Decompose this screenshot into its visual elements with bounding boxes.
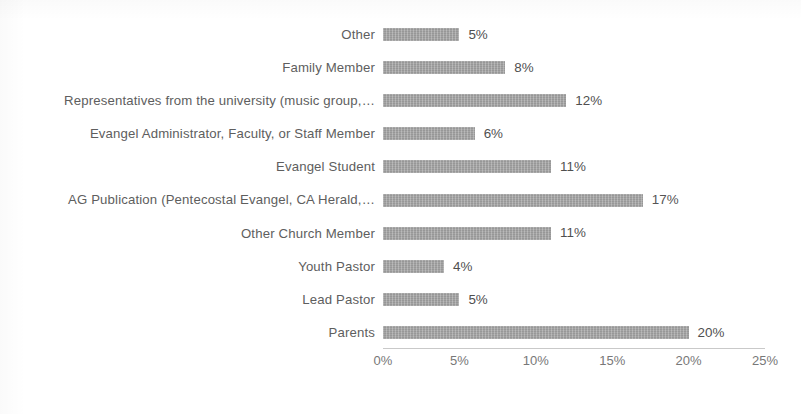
category-label: AG Publication (Pentecostal Evangel, CA … [68, 193, 375, 206]
category-label: Other Church Member [241, 227, 375, 240]
bar-row: Youth Pastor4% [0, 250, 801, 283]
bar-rows: Other5%Family Member8%Representatives fr… [0, 18, 801, 349]
x-axis-line [383, 348, 765, 349]
bar-chart: Other5%Family Member8%Representatives fr… [0, 0, 801, 414]
bar-value-label: 11% [560, 226, 586, 239]
plot-area: Other5%Family Member8%Representatives fr… [0, 0, 801, 414]
bar-value-label: 5% [468, 293, 487, 306]
bar-value-label: 17% [652, 193, 679, 206]
category-label: Evangel Student [276, 160, 375, 173]
category-label: Parents [329, 326, 376, 339]
bar-container: 17% [383, 194, 679, 207]
bar-value-label: 20% [698, 326, 725, 339]
bar-row: Other5% [0, 18, 801, 51]
bar-row: Lead Pastor5% [0, 283, 801, 316]
bar-container: 8% [383, 61, 534, 74]
category-label: Lead Pastor [302, 293, 375, 306]
category-label: Youth Pastor [298, 260, 375, 273]
bar [383, 227, 551, 240]
x-tick-label: 15% [599, 354, 625, 367]
bar-container: 20% [383, 326, 724, 339]
bar [383, 160, 551, 173]
bar-row: Evangel Administrator, Faculty, or Staff… [0, 117, 801, 150]
bar-value-label: 8% [514, 61, 533, 74]
x-tick-label: 25% [752, 354, 778, 367]
bar-value-label: 4% [453, 260, 472, 273]
bar-container: 5% [383, 28, 488, 41]
bar-row: AG Publication (Pentecostal Evangel, CA … [0, 183, 801, 216]
x-tick-label: 5% [450, 354, 469, 367]
bar [383, 326, 689, 339]
bar-row: Evangel Student11% [0, 150, 801, 183]
bar-row: Representatives from the university (mus… [0, 84, 801, 117]
bar-container: 6% [383, 127, 503, 140]
bar-value-label: 12% [575, 94, 602, 107]
bar-row: Parents20% [0, 316, 801, 349]
bar [383, 293, 459, 306]
x-tick-label: 0% [374, 354, 393, 367]
bar [383, 94, 566, 107]
bar [383, 260, 444, 273]
category-label: Family Member [282, 61, 375, 74]
x-axis-tick-labels: 0%5%10%15%20%25% [0, 354, 801, 374]
bar-value-label: 5% [468, 28, 487, 41]
bar-container: 12% [383, 94, 602, 107]
category-label: Evangel Administrator, Faculty, or Staff… [90, 127, 375, 140]
bar-container: 5% [383, 293, 488, 306]
bar-container: 11% [383, 227, 586, 240]
bar-container: 11% [383, 160, 586, 173]
bar-row: Other Church Member11% [0, 217, 801, 250]
category-label: Representatives from the university (mus… [64, 94, 375, 107]
x-tick-label: 10% [523, 354, 549, 367]
bar [383, 61, 505, 74]
x-tick-label: 20% [676, 354, 702, 367]
bar [383, 194, 643, 207]
bar [383, 127, 475, 140]
bar-row: Family Member8% [0, 51, 801, 84]
bar-container: 4% [383, 260, 472, 273]
category-label: Other [341, 28, 375, 41]
bar-value-label: 11% [560, 160, 586, 173]
bar [383, 28, 459, 41]
bar-value-label: 6% [484, 127, 503, 140]
